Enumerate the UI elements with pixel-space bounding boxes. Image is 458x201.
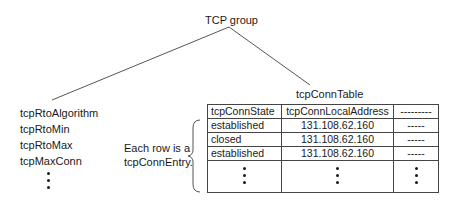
root-node-label: TCP group xyxy=(205,14,258,27)
scalar-item: tcpRtoMax xyxy=(20,139,73,152)
scalar-item: tcpRtoAlgorithm xyxy=(20,107,98,120)
header-cell: tcpConnState xyxy=(208,105,282,119)
scalar-item: tcpRtoMin xyxy=(20,123,70,136)
table-row: closed 131.108.62.160 ----- xyxy=(208,133,439,147)
ellipsis-icon xyxy=(208,161,282,193)
table-row: established 131.108.62.160 ----- xyxy=(208,119,439,133)
table-cell: 131.108.62.160 xyxy=(282,119,394,133)
table-cell: ----- xyxy=(394,133,439,147)
ellipsis-icon xyxy=(394,161,439,193)
header-cell: tcpConnLocalAddress xyxy=(282,105,394,119)
table-row: established 131.108.62.160 ----- xyxy=(208,147,439,161)
table-cell: ----- xyxy=(394,119,439,133)
table-cell: 131.108.62.160 xyxy=(282,133,394,147)
table-cell: ----- xyxy=(394,147,439,161)
table-header-row: tcpConnState tcpConnLocalAddress -------… xyxy=(208,105,439,119)
header-cell: --------- xyxy=(394,105,439,119)
scalar-item: tcpMaxConn xyxy=(20,155,82,168)
table-cell: 131.108.62.160 xyxy=(282,147,394,161)
table-cell: closed xyxy=(208,133,282,147)
tcp-conn-table: tcpConnState tcpConnLocalAddress -------… xyxy=(207,104,439,193)
annotation-line-2: tcpConnEntry. xyxy=(124,156,193,169)
ellipsis-icon xyxy=(46,168,50,197)
table-cell: established xyxy=(208,119,282,133)
annotation-line-1: Each row is a xyxy=(124,142,190,155)
table-row-ellipsis xyxy=(208,161,439,193)
ellipsis-icon xyxy=(282,161,394,193)
table-title: tcpConnTable xyxy=(296,88,363,101)
table-cell: established xyxy=(208,147,282,161)
